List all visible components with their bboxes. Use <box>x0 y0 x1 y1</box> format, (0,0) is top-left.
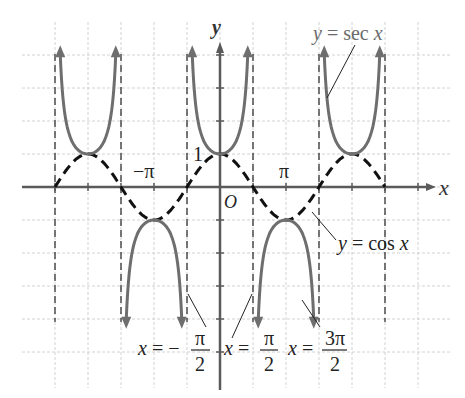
x-axis-label: x <box>438 175 449 200</box>
svg-text:π: π <box>195 327 205 349</box>
sec-cos-graph: y x O 1 −π π y = sec x y = cos x x = − π… <box>0 0 465 398</box>
sec-annotation: y = sec x <box>311 22 383 45</box>
origin-label: O <box>224 192 237 212</box>
y-axis-label: y <box>210 16 221 39</box>
cos-annotation: y = cos x <box>336 232 409 255</box>
grid-lines <box>22 22 452 388</box>
svg-text:2: 2 <box>330 353 340 375</box>
x-tick-neg-pi-label: −π <box>133 160 154 182</box>
svg-text:x = −: x = − <box>137 337 179 359</box>
asymptote-label-half-pi: x = π 2 <box>223 327 278 375</box>
svg-text:π: π <box>264 327 274 349</box>
svg-text:x =: x = <box>287 337 313 359</box>
leader-lines <box>188 45 355 338</box>
x-tick-pi-label: π <box>279 160 289 182</box>
svg-text:2: 2 <box>264 353 274 375</box>
asymptote-label-three-half-pi: x = 3π 2 <box>287 327 347 375</box>
svg-text:2: 2 <box>195 353 205 375</box>
svg-text:x =: x = <box>223 337 249 359</box>
y-tick-1-label: 1 <box>193 143 203 165</box>
asymptote-label-neg-half-pi: x = − π 2 <box>137 327 210 375</box>
svg-text:3π: 3π <box>325 327 345 349</box>
